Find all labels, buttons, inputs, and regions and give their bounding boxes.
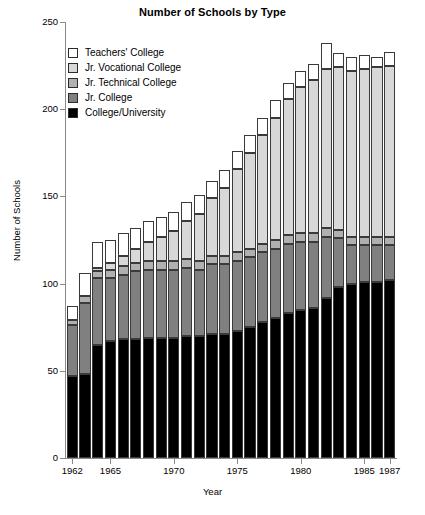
legend-label: Teachers' College (85, 48, 164, 58)
bar-segment (321, 228, 332, 237)
bar-segment (143, 270, 154, 338)
bar-segment (308, 80, 319, 233)
bar-1987 (384, 22, 395, 458)
bar-segment (181, 221, 192, 259)
bar-segment (257, 118, 268, 135)
bar-segment (270, 100, 281, 117)
bar-segment (321, 298, 332, 458)
legend-item-1: Jr. Vocational College (68, 60, 181, 75)
x-tick-label: 1970 (154, 466, 194, 476)
x-tick-mark (174, 459, 175, 464)
bar-segment (206, 198, 217, 256)
legend-label: Jr. Technical College (85, 78, 177, 88)
bar-segment (244, 327, 255, 458)
bar-segment (257, 244, 268, 253)
bar-1979 (283, 22, 294, 458)
bar-segment (359, 282, 370, 458)
legend-swatch-icon (68, 108, 78, 118)
bar-segment (384, 52, 395, 66)
y-tick-mark (60, 458, 66, 459)
x-tick-mark (72, 459, 73, 464)
bar-segment (118, 275, 129, 340)
legend-item-4: College/University (68, 106, 181, 121)
bar-segment (384, 280, 395, 458)
bar-segment (333, 67, 344, 229)
bar-1972 (194, 22, 205, 458)
bar-segment (130, 263, 141, 272)
bar-1977 (257, 22, 268, 458)
bar-segment (67, 306, 78, 320)
bar-segment (257, 322, 268, 458)
bar-segment (67, 325, 78, 376)
bar-segment (270, 318, 281, 458)
bar-1985 (359, 22, 370, 458)
bar-segment (168, 270, 179, 338)
x-axis-title: Year (0, 486, 425, 497)
chart-container: Number of Schools by Type 05010015020025… (0, 0, 425, 515)
legend-item-2: Jr. Technical College (68, 75, 181, 90)
bar-segment (194, 261, 205, 270)
bar-1971 (181, 22, 192, 458)
bar-segment (321, 237, 332, 298)
bar-segment (359, 245, 370, 282)
x-tick-label: 1962 (52, 466, 92, 476)
bar-segment (244, 249, 255, 258)
x-axis-line (65, 458, 397, 459)
x-tick-mark (390, 459, 391, 464)
bar-segment (321, 43, 332, 69)
bar-segment (371, 245, 382, 282)
y-tick-label: 50 (6, 366, 58, 376)
bar-segment (181, 336, 192, 458)
bar-segment (283, 99, 294, 235)
bar-segment (156, 270, 167, 338)
legend-swatch-icon (68, 93, 78, 103)
bar-1984 (346, 22, 357, 458)
bar-segment (270, 249, 281, 319)
bar-segment (283, 235, 294, 244)
bar-segment (105, 270, 116, 279)
bar-segment (130, 339, 141, 458)
bar-segment (105, 278, 116, 341)
bar-segment (79, 374, 90, 458)
bar-segment (92, 278, 103, 344)
bar-segment (105, 341, 116, 458)
bar-segment (118, 256, 129, 266)
bar-segment (308, 233, 319, 242)
bar-segment (346, 71, 357, 237)
bar-segment (384, 245, 395, 280)
bar-segment (156, 261, 167, 270)
bar-segment (206, 256, 217, 265)
bar-segment (308, 308, 319, 458)
legend-label: Jr. Vocational College (85, 63, 181, 73)
bar-segment (244, 135, 255, 152)
bar-segment (359, 237, 370, 246)
bar-segment (295, 71, 306, 87)
bar-segment (156, 338, 167, 458)
bar-segment (244, 257, 255, 327)
x-tick-label: 1980 (281, 466, 321, 476)
bar-segment (232, 151, 243, 168)
bar-1973 (206, 22, 217, 458)
y-axis-title: Number of Schools (11, 161, 22, 281)
bar-segment (232, 261, 243, 331)
x-tick-mark (364, 459, 365, 464)
chart-legend: Teachers' CollegeJr. Vocational CollegeJ… (68, 45, 181, 121)
x-tick-label: 1965 (90, 466, 130, 476)
bar-segment (194, 214, 205, 261)
legend-item-0: Teachers' College (68, 45, 181, 60)
bar-segment (244, 153, 255, 249)
bar-segment (206, 264, 217, 334)
bar-segment (333, 287, 344, 458)
bar-segment (79, 303, 90, 375)
bar-segment (92, 271, 103, 278)
y-tick-label: 0 (6, 453, 58, 463)
bar-segment (181, 259, 192, 268)
bar-segment (219, 264, 230, 334)
bar-1981 (308, 22, 319, 458)
x-tick-mark (237, 459, 238, 464)
bar-segment (384, 66, 395, 237)
bar-segment (92, 345, 103, 458)
bar-segment (359, 69, 370, 236)
legend-swatch-icon (68, 78, 78, 88)
legend-label: College/University (85, 108, 166, 118)
